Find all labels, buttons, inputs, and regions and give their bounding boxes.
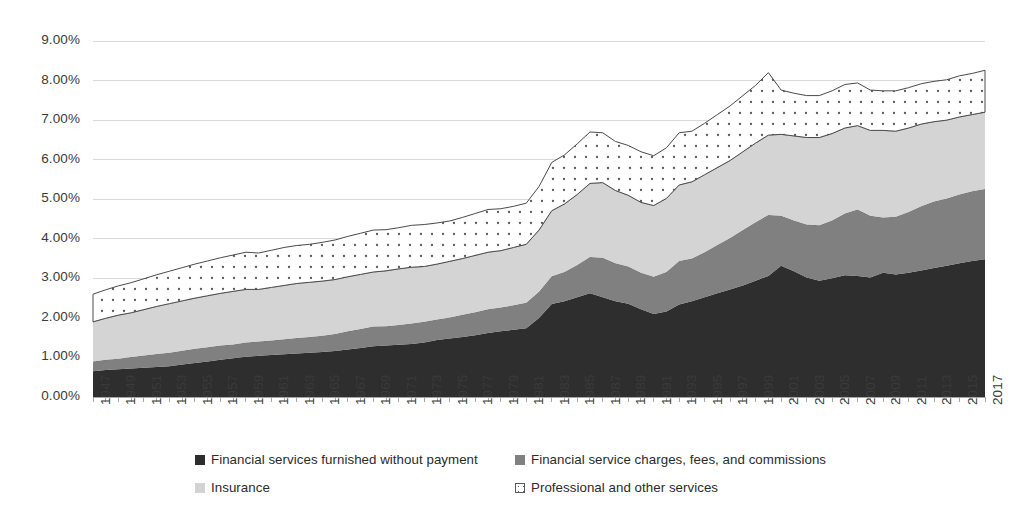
y-axis-tick-label: 1.00% xyxy=(14,348,80,363)
legend-entry[interactable]: Professional and other services xyxy=(515,480,718,495)
y-axis-tick-label: 7.00% xyxy=(14,111,80,126)
y-axis-tick-label: 9.00% xyxy=(14,32,80,47)
stacked-area-chart: 0.00%1.00%2.00%3.00%4.00%5.00%6.00%7.00%… xyxy=(0,0,1017,532)
x-axis-tick-label: 1965 xyxy=(327,375,342,405)
x-axis-tick-label: 1993 xyxy=(684,375,699,405)
x-axis-tick-label: 1977 xyxy=(480,375,495,405)
legend-entry[interactable]: Financial service charges, fees, and com… xyxy=(515,452,826,467)
x-axis-tick-label: 1957 xyxy=(225,375,240,405)
x-axis-tick-label: 2005 xyxy=(837,375,852,405)
legend-label: Professional and other services xyxy=(531,480,718,495)
x-axis-tick-label: 2003 xyxy=(812,375,827,405)
y-axis-tick-label: 2.00% xyxy=(14,309,80,324)
legend-label: Insurance xyxy=(211,480,270,495)
x-axis-tick-label: 2009 xyxy=(888,375,903,405)
x-axis-tick-label: 1991 xyxy=(659,375,674,405)
x-axis-tick-label: 2017 xyxy=(990,375,1005,405)
legend-entry[interactable]: Financial services furnished without pay… xyxy=(195,452,478,467)
x-axis-tick-label: 2001 xyxy=(786,375,801,405)
x-axis-tick-label: 1999 xyxy=(761,375,776,405)
y-axis-tick-label: 0.00% xyxy=(14,388,80,403)
y-axis-tick-label: 5.00% xyxy=(14,190,80,205)
x-axis-tick-label: 1963 xyxy=(302,375,317,405)
x-axis-tick-label: 1955 xyxy=(200,375,215,405)
x-axis-tick-label: 1961 xyxy=(276,375,291,405)
y-axis-tick-label: 3.00% xyxy=(14,269,80,284)
x-axis-tick-label: 1967 xyxy=(353,375,368,405)
x-axis-tick-label: 1975 xyxy=(455,375,470,405)
x-axis-tick-label: 1997 xyxy=(735,375,750,405)
area-series-group xyxy=(93,70,985,397)
x-axis-tick-label: 1983 xyxy=(557,375,572,405)
x-axis-tick-label: 1953 xyxy=(174,375,189,405)
x-axis-tick-label: 1947 xyxy=(98,375,113,405)
x-axis-tick-label: 2007 xyxy=(863,375,878,405)
legend-swatch-icon xyxy=(515,483,525,493)
legend-swatch-icon xyxy=(195,455,205,465)
x-axis-tick-label: 1949 xyxy=(123,375,138,405)
x-axis-tick-label: 1969 xyxy=(378,375,393,405)
x-axis-tick-label: 2015 xyxy=(965,375,980,405)
x-axis-tick-label: 1981 xyxy=(531,375,546,405)
x-axis-tick-label: 2013 xyxy=(939,375,954,405)
x-axis-tick-label: 1979 xyxy=(506,375,521,405)
x-axis-tick-label: 1987 xyxy=(608,375,623,405)
x-axis-tick-label: 1951 xyxy=(149,375,164,405)
y-axis-tick-label: 8.00% xyxy=(14,72,80,87)
chart-legend: Financial services furnished without pay… xyxy=(195,452,835,510)
x-axis-tick-label: 1971 xyxy=(404,375,419,405)
x-axis-tick-label: 1989 xyxy=(633,375,648,405)
x-axis-tick-label: 1995 xyxy=(710,375,725,405)
x-axis-tick-label: 1973 xyxy=(429,375,444,405)
legend-swatch-icon xyxy=(515,455,525,465)
y-axis-tick-label: 4.00% xyxy=(14,230,80,245)
legend-label: Financial service charges, fees, and com… xyxy=(531,452,826,467)
x-axis-tick-label: 1985 xyxy=(582,375,597,405)
x-axis-tick-label: 2011 xyxy=(914,376,929,405)
legend-label: Financial services furnished without pay… xyxy=(211,452,478,467)
legend-swatch-icon xyxy=(195,483,205,493)
x-axis-tick-label: 1959 xyxy=(251,375,266,405)
legend-entry[interactable]: Insurance xyxy=(195,480,270,495)
y-axis-tick-label: 6.00% xyxy=(14,151,80,166)
